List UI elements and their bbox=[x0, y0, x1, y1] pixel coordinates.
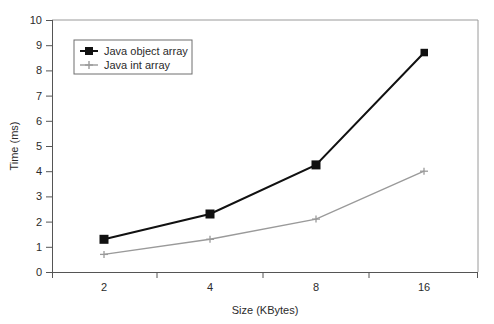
y-tick-label: 0 bbox=[36, 266, 42, 278]
y-tick-label: 1 bbox=[36, 241, 42, 253]
x-axis-title: Size (KBytes) bbox=[232, 304, 299, 316]
line-chart: 0 1 2 3 4 5 6 7 8 9 10 2 4 8 16 Si bbox=[0, 0, 494, 324]
chart-legend: Java object array Java int array bbox=[74, 40, 192, 74]
y-tick-label: 8 bbox=[36, 64, 42, 76]
y-tick-label: 3 bbox=[36, 190, 42, 202]
chart-figure: 0 1 2 3 4 5 6 7 8 9 10 2 4 8 16 Si bbox=[0, 0, 494, 324]
y-tick-label: 2 bbox=[36, 216, 42, 228]
x-axis-tick-labels: 2 4 8 16 bbox=[101, 281, 430, 293]
x-tick-label: 16 bbox=[418, 281, 430, 293]
y-axis-ticks bbox=[46, 21, 52, 273]
x-tick-label: 8 bbox=[313, 281, 319, 293]
y-tick-label: 4 bbox=[36, 165, 42, 177]
y-tick-label: 9 bbox=[36, 39, 42, 51]
y-axis-title: Time (ms) bbox=[8, 121, 20, 170]
x-tick-label: 2 bbox=[101, 281, 107, 293]
legend-label: Java object array bbox=[104, 45, 188, 57]
legend-label: Java int array bbox=[104, 59, 171, 71]
y-tick-label: 10 bbox=[30, 14, 42, 26]
square-marker-icon bbox=[85, 47, 93, 55]
y-tick-label: 6 bbox=[36, 115, 42, 127]
y-axis-tick-labels: 0 1 2 3 4 5 6 7 8 9 10 bbox=[30, 14, 42, 278]
x-tick-label: 4 bbox=[207, 281, 213, 293]
y-tick-label: 5 bbox=[36, 140, 42, 152]
y-tick-label: 7 bbox=[36, 90, 42, 102]
